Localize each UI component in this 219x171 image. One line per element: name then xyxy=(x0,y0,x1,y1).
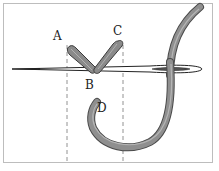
stitch-diagram: A B C D xyxy=(0,0,219,171)
label-d: D xyxy=(97,101,107,115)
label-c: C xyxy=(113,24,122,38)
label-b: B xyxy=(85,78,94,92)
label-a: A xyxy=(52,29,62,43)
